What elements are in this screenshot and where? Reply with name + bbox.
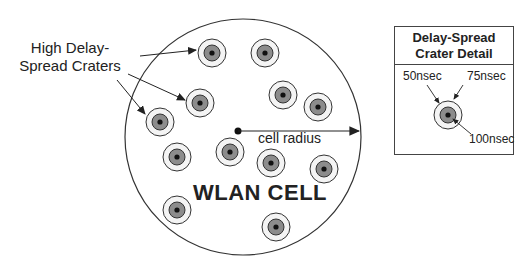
crater (257, 149, 285, 177)
crater (163, 196, 191, 224)
crater (163, 143, 191, 171)
crater (186, 89, 214, 117)
crater (304, 93, 332, 121)
crater (251, 39, 279, 67)
craters-label-line2: Spread Craters (14, 57, 126, 75)
wlan-cell-label: WLAN CELL (193, 180, 327, 206)
crater (198, 39, 226, 67)
crater (310, 155, 338, 183)
crater-detail-box: Delay-Spread Crater Detail 50nsec 75nsec… (394, 26, 514, 155)
wlan-cell-circle (125, 19, 361, 255)
crater (262, 213, 290, 241)
cell-radius-label: cell radius (258, 130, 321, 146)
craters-label-line1: High Delay- (14, 39, 126, 57)
crater (216, 138, 244, 166)
crater (146, 108, 174, 136)
detail-crater (395, 27, 513, 154)
crater (269, 81, 297, 109)
high-delay-spread-craters-label: High Delay- Spread Craters (14, 39, 126, 75)
label-arrows (117, 50, 196, 114)
